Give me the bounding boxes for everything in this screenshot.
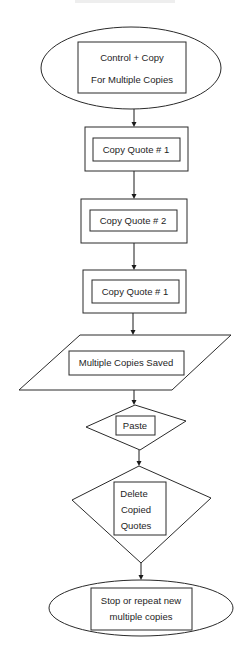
cropped-caption [75, 0, 175, 3]
node-copy-quote-2: Copy Quote # 2 [81, 199, 187, 243]
delete-label-line-2: Copied [121, 504, 151, 515]
delete-label-line-1: Delete [120, 488, 147, 499]
copy2-label: Copy Quote # 2 [100, 215, 167, 226]
node-end: Stop or repeat new multiple copies [49, 580, 233, 636]
arrowhead [137, 461, 142, 466]
start-label-line-2: For Multiple Copies [91, 74, 173, 85]
arrowhead [139, 575, 144, 580]
arrowhead [132, 194, 137, 199]
start-label-line-1: Control + Copy [100, 52, 164, 63]
node-paste: Paste [86, 405, 186, 450]
node-delete-copied-quotes: Delete Copied Quotes [72, 466, 211, 563]
flowchart-canvas: Control + Copy For Multiple Copies Copy … [0, 0, 246, 662]
arrowhead [132, 265, 137, 270]
paste-label: Paste [123, 420, 147, 431]
node-multiple-copies-saved: Multiple Copies Saved [19, 335, 231, 390]
copy1-label: Copy Quote # 1 [103, 144, 170, 155]
end-label-line-2: multiple copies [110, 611, 173, 622]
node-copy-quote-1: Copy Quote # 1 [85, 127, 188, 171]
node-start: Control + Copy For Multiple Copies [41, 27, 221, 109]
end-label-line-1: Stop or repeat new [101, 595, 181, 606]
node-copy-quote-3: Copy Quote # 1 [83, 270, 186, 313]
arrowhead [132, 400, 137, 405]
arrowhead [131, 330, 136, 335]
arrowhead [132, 122, 137, 127]
start-inner-box [78, 42, 186, 93]
delete-label-line-3: Quotes [121, 520, 152, 531]
saved-label: Multiple Copies Saved [79, 357, 174, 368]
copy3-label: Copy Quote # 1 [102, 286, 169, 297]
